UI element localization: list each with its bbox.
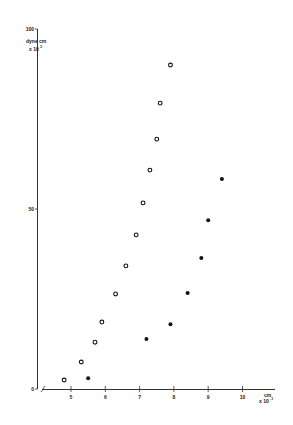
y-unit-line2: x 10 <box>29 46 39 52</box>
y-ticks: 050100 <box>26 26 38 392</box>
y-unit-line1: dyne cm <box>26 38 47 44</box>
open-circle-point <box>79 360 83 364</box>
x-tick-label: 9 <box>207 394 210 400</box>
y-tick-label: 100 <box>26 26 35 32</box>
x-unit-line2: x 10 <box>259 398 269 404</box>
open-circle-point <box>158 101 162 105</box>
x-tick-label: 10 <box>240 394 246 400</box>
open-circle-point <box>100 320 104 324</box>
open-circle-point <box>93 340 97 344</box>
y-unit-exp: 3 <box>40 45 42 49</box>
open-circle-point <box>155 137 159 141</box>
open-circle-point <box>124 264 128 268</box>
filled-circle-point <box>220 177 224 181</box>
x-tick-label: 7 <box>138 394 141 400</box>
x-tick-label: 6 <box>104 394 107 400</box>
filled-circle-point <box>186 291 190 295</box>
x-unit-exp: -1 <box>270 397 273 401</box>
y-tick-label: 50 <box>28 206 34 212</box>
open-circle-point <box>134 233 138 237</box>
x-ticks: 5678910 <box>70 386 246 400</box>
x-axis-label: cm x 10 -1 <box>259 392 273 404</box>
filled-circle-point <box>144 337 148 341</box>
filled-circle-point <box>206 218 210 222</box>
filled-circle-point <box>199 256 203 260</box>
open-circle-point <box>169 63 173 67</box>
filled-circle-point <box>168 322 172 326</box>
filled-circle-point <box>86 376 90 380</box>
y-tick-label: 0 <box>31 386 34 392</box>
axes <box>38 29 276 392</box>
y-axis-label: dyne cm x 10 3 <box>26 38 47 52</box>
open-circle-point <box>62 378 66 382</box>
scatter-chart: 050100 5678910 dyne cm x 10 3 cm x 10 -1 <box>0 0 293 425</box>
open-circle-point <box>148 168 152 172</box>
x-tick-label: 8 <box>173 394 176 400</box>
open-circle-point <box>141 201 145 205</box>
x-tick-label: 5 <box>70 394 73 400</box>
data-points <box>62 63 224 382</box>
open-circle-point <box>114 292 118 296</box>
